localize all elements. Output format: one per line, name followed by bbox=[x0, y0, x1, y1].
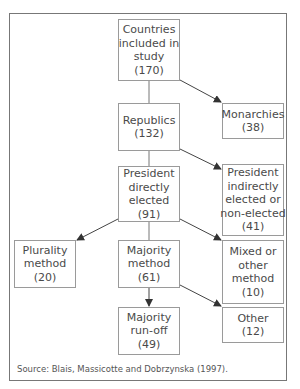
node-runoff: Majority run-off (49) bbox=[118, 307, 180, 355]
node-text: Mixed or bbox=[229, 245, 276, 259]
node-majority: Majority method (61) bbox=[118, 240, 180, 288]
node-text: method bbox=[128, 257, 170, 271]
node-text: Majority bbox=[127, 311, 171, 325]
node-text: President bbox=[227, 166, 278, 180]
node-text: run-off bbox=[131, 324, 168, 338]
node-count: (12) bbox=[242, 325, 265, 339]
node-text: directly bbox=[128, 181, 169, 195]
node-text: Majority bbox=[127, 244, 171, 258]
node-countries: Countries included in study (170) bbox=[118, 19, 180, 81]
node-count: (132) bbox=[134, 127, 164, 141]
node-count: (49) bbox=[138, 338, 161, 352]
node-president-direct: President directly elected (91) bbox=[118, 166, 180, 222]
node-text: included in bbox=[119, 37, 179, 51]
node-text: method bbox=[232, 272, 274, 286]
node-other: Other (12) bbox=[222, 307, 284, 343]
node-text: indirectly bbox=[227, 180, 278, 194]
node-count: (20) bbox=[34, 271, 57, 285]
edge-republics-president-indirect bbox=[180, 149, 221, 169]
node-count: (170) bbox=[134, 64, 164, 78]
node-count: (91) bbox=[138, 208, 161, 222]
edge-president-mixed bbox=[180, 219, 221, 240]
edge-countries-monarchies bbox=[180, 80, 221, 102]
source-caption: Source: Blais, Massicotte and Dobrzynska… bbox=[17, 364, 228, 374]
node-text: Republics bbox=[123, 114, 176, 128]
node-text: Plurality bbox=[23, 244, 68, 258]
node-text: Monarchies bbox=[222, 108, 285, 122]
node-count: (61) bbox=[138, 271, 161, 285]
node-text: other bbox=[238, 259, 267, 273]
node-text: elected bbox=[129, 194, 170, 208]
node-monarchies: Monarchies (38) bbox=[222, 103, 284, 139]
node-text: elected or bbox=[225, 193, 280, 207]
node-mixed: Mixed or other method (10) bbox=[222, 240, 284, 304]
node-text: Countries bbox=[123, 23, 176, 37]
edge-president-plurality bbox=[77, 219, 118, 240]
node-count: (10) bbox=[242, 286, 265, 300]
node-text: non-elected bbox=[220, 207, 285, 221]
node-text: method bbox=[24, 257, 66, 271]
node-count: (41) bbox=[242, 220, 265, 234]
node-count: (38) bbox=[242, 121, 265, 135]
node-text: Other bbox=[237, 312, 268, 326]
node-president-indirect: President indirectly elected or non-elec… bbox=[222, 164, 284, 236]
node-text: study bbox=[134, 50, 165, 64]
edge-majority-other bbox=[180, 285, 221, 306]
node-republics: Republics (132) bbox=[118, 103, 180, 151]
node-text: President bbox=[123, 167, 174, 181]
node-plurality: Plurality method (20) bbox=[14, 240, 76, 288]
